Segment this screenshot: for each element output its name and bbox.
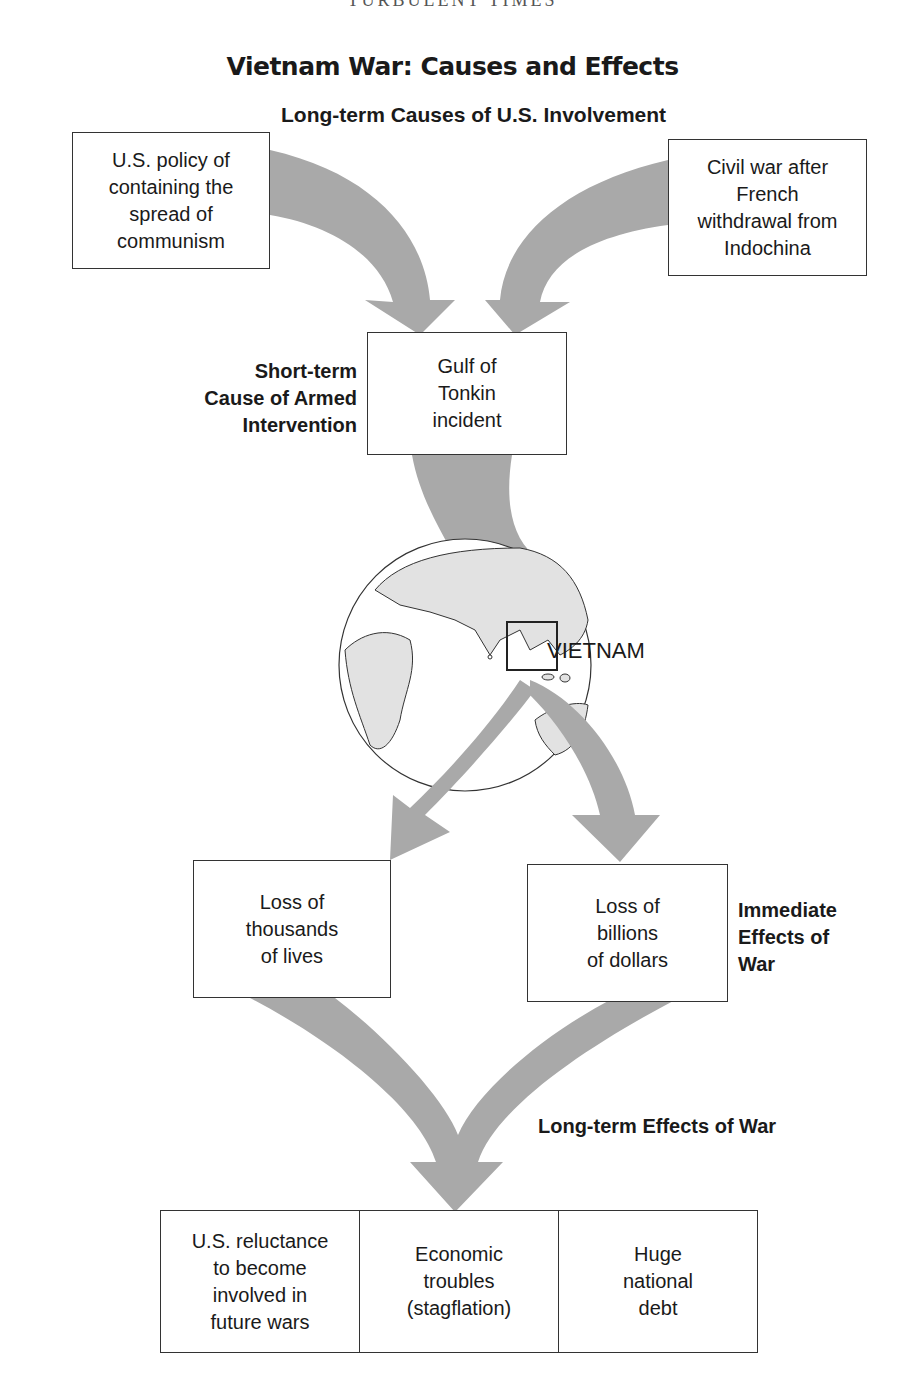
arrow-cause-right: [485, 160, 668, 335]
effect-box-dollars: Loss of billions of dollars: [527, 864, 728, 1002]
long-term-effect-reluctance: U.S. reluctance to become involved in fu…: [161, 1211, 360, 1352]
long-term-effect-text: U.S. reluctance to become involved in fu…: [192, 1228, 329, 1336]
tonkin-text: Gulf of Tonkin incident: [433, 353, 502, 434]
cause-text: U.S. policy of containing the spread of …: [109, 147, 234, 255]
long-term-effect-debt: Huge national debt: [559, 1211, 757, 1352]
immediate-effects-heading: Immediate Effects of War: [738, 897, 837, 978]
vietnam-label: VIETNAM: [547, 638, 645, 664]
long-term-effects-table: U.S. reluctance to become involved in fu…: [160, 1210, 758, 1353]
cause-box-civil-war: Civil war after French withdrawal from I…: [668, 139, 867, 276]
arrow-to-long-term-effects: [250, 998, 675, 1212]
long-term-effect-economic: Economic troubles (stagflation): [360, 1211, 559, 1352]
long-term-effect-text: Huge national debt: [623, 1241, 693, 1322]
effect-text: Loss of thousands of lives: [246, 889, 338, 970]
short-term-cause-heading: Short-term Cause of Armed Intervention: [160, 358, 357, 439]
cause-box-containment: U.S. policy of containing the spread of …: [72, 132, 270, 269]
cause-text: Civil war after French withdrawal from I…: [697, 154, 837, 262]
tonkin-box: Gulf of Tonkin incident: [367, 332, 567, 455]
arrow-cause-left: [270, 150, 455, 335]
effect-box-lives: Loss of thousands of lives: [193, 860, 391, 998]
arrow-globe-to-dollars: [530, 680, 660, 862]
long-term-effect-text: Economic troubles (stagflation): [407, 1241, 512, 1322]
effect-text: Loss of billions of dollars: [587, 893, 668, 974]
long-term-effects-heading: Long-term Effects of War: [538, 1113, 776, 1140]
